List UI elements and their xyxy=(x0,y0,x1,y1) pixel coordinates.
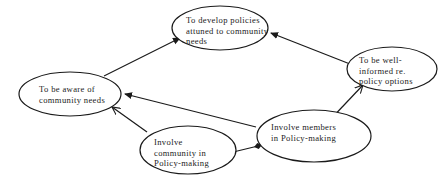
node-well-informed: To be well-informed re.policy options xyxy=(347,47,437,91)
edge-well-informed-to-develop-policies xyxy=(271,33,350,64)
node-label-line: To be aware of xyxy=(39,84,95,94)
node-label-line: in Policy-making xyxy=(271,133,336,143)
node-aware-needs: To be aware ofcommunity needs xyxy=(19,72,121,116)
node-develop-policies: To develop policiesattuned to communityn… xyxy=(172,6,269,50)
edge-aware-needs-to-develop-policies xyxy=(104,38,180,76)
node-involve-members: Involve membersin Policy-making xyxy=(257,110,371,162)
node-label-line: To be well- xyxy=(359,55,402,65)
node-label-line: informed re. xyxy=(359,66,406,76)
concept-diagram: To develop policiesattuned to communityn… xyxy=(0,0,444,179)
node-label-line: Involve xyxy=(154,137,183,147)
edge-involve-members-to-aware-needs xyxy=(125,94,256,127)
node-label-line: needs xyxy=(186,36,208,46)
node-label-line: policy options xyxy=(359,76,413,86)
node-label-line: Policy-making xyxy=(154,158,210,168)
node-label-line: community in xyxy=(154,148,207,158)
node-label-line: community needs xyxy=(39,95,105,105)
node-involve-community: Involvecommunity inPolicy-making xyxy=(140,126,236,174)
nodes-layer: To develop policiesattuned to communityn… xyxy=(19,6,437,174)
node-label: Involve membersin Policy-making xyxy=(271,122,336,143)
node-label-line: To develop policies xyxy=(186,15,260,25)
node-label-line: attuned to community xyxy=(186,26,269,36)
node-label-line: Involve members xyxy=(271,122,336,132)
edge-involve-community-to-aware-needs xyxy=(112,107,147,132)
